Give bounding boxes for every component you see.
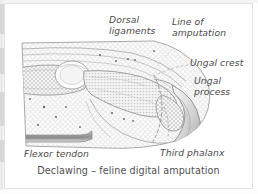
label-third-phalanx: Third phalanx <box>160 148 225 159</box>
figure-caption: Declawing – feline digital amputation <box>4 165 253 176</box>
label-flexor-tendon: Flexor tendon <box>24 149 89 160</box>
page-bottom-edge-strip <box>0 190 258 194</box>
screenshot-root: Dorsal ligaments Line of amputation Unga… <box>0 0 258 194</box>
label-line-of-amputation: Line of amputation <box>172 17 226 38</box>
label-ungal-crest: Ungal crest <box>190 58 243 69</box>
label-dorsal-ligaments: Dorsal ligaments <box>109 15 155 36</box>
label-ungal-process: Ungal process <box>194 76 230 97</box>
anatomical-illustration: Dorsal ligaments Line of amputation Unga… <box>4 3 253 189</box>
